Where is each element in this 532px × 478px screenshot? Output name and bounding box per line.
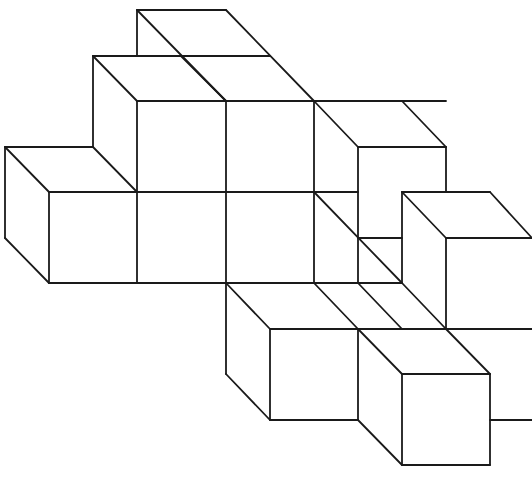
diagram-background <box>0 0 532 478</box>
cube-stack-diagram <box>0 0 532 478</box>
